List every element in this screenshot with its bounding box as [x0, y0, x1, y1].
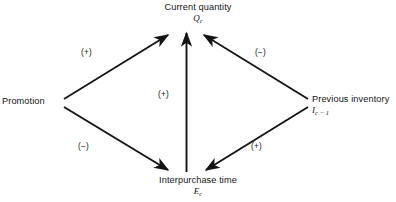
sign-label-interpurchase-time-to-current-quantity: (+)	[158, 90, 169, 99]
node-interpurchase-time-symbol: Ec	[0, 186, 396, 197]
node-current-quantity-symbol: Qc	[0, 13, 396, 24]
sign-label-promotion-to-interpurchase-time: (−)	[78, 142, 89, 151]
node-previous-inventory-symbol-subscript: c − 1	[315, 109, 329, 116]
causal-path-diagram: Current quantity Qc Promotion Previous i…	[0, 0, 396, 202]
node-current-quantity-symbol-subscript: c	[200, 17, 203, 24]
node-previous-inventory-label: Previous inventory	[312, 94, 396, 105]
sign-label-promotion-to-current-quantity: (+)	[81, 48, 92, 57]
node-current-quantity: Current quantity Qc	[0, 2, 396, 24]
node-promotion-label: Promotion	[2, 96, 62, 107]
node-previous-inventory: Previous inventory Ic − 1	[312, 94, 396, 116]
node-interpurchase-time: Interpurchase time Ec	[0, 175, 396, 197]
sign-label-previous-inventory-to-current-quantity: (−)	[255, 48, 266, 57]
node-previous-inventory-symbol: Ic − 1	[312, 105, 396, 116]
edge-promotion-to-current-quantity	[64, 35, 168, 99]
edge-previous-inventory-to-current-quantity	[204, 35, 308, 99]
edge-previous-inventory-to-interpurchase-time	[206, 107, 308, 170]
node-interpurchase-time-label: Interpurchase time	[0, 175, 396, 186]
edge-promotion-to-interpurchase-time	[64, 107, 168, 170]
node-interpurchase-time-symbol-subscript: c	[199, 190, 202, 197]
node-current-quantity-label: Current quantity	[0, 2, 396, 13]
sign-label-previous-inventory-to-interpurchase-time: (+)	[251, 142, 262, 151]
node-current-quantity-symbol-base: Q	[193, 13, 200, 23]
node-promotion: Promotion	[2, 96, 62, 107]
